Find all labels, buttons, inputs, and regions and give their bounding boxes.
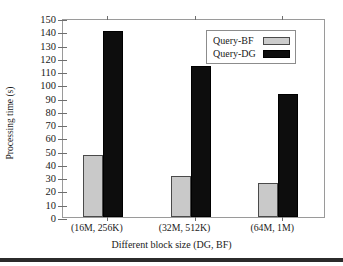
bar-query-dg-1 [191, 66, 211, 217]
y-tick-inner-70 [63, 126, 67, 127]
x-axis-title: Different block size (DG, BF) [0, 239, 343, 250]
legend-item-query-bf: Query-BF [213, 34, 290, 47]
y-tick-inner-50 [63, 153, 67, 154]
bar-query-dg-0 [103, 31, 123, 217]
x-tick-1 [195, 217, 196, 221]
y-tick-inner-20 [63, 192, 67, 193]
y-tick-label-150: 150 [40, 15, 56, 26]
y-tick-label-120: 120 [40, 55, 56, 66]
legend: Query-BF Query-DG [206, 30, 296, 64]
y-tick-inner-110 [63, 73, 67, 74]
y-tick-label-130: 130 [40, 41, 56, 52]
x-tick-top-1 [195, 16, 196, 20]
y-tick-label-30: 30 [46, 174, 57, 185]
y-tick-inner-60 [63, 139, 67, 140]
y-tick-inner-0 [63, 219, 67, 220]
y-axis-title-text: Processing time (s) [5, 48, 15, 198]
y-tick-label-110: 110 [41, 68, 56, 79]
x-category-label-0: (16M, 256K) [71, 222, 123, 233]
y-tick-inner-130 [63, 47, 67, 48]
y-tick-inner-80 [63, 113, 67, 114]
y-tick-inner-40 [63, 166, 67, 167]
bottom-rule [0, 258, 343, 262]
legend-label-query-dg: Query-DG [213, 48, 256, 59]
bar-query-bf-0 [83, 155, 103, 217]
bar-query-bf-1 [171, 176, 191, 217]
y-tick-label-60: 60 [46, 134, 57, 145]
y-tick-inner-10 [63, 206, 67, 207]
x-tick-top-2 [282, 16, 283, 20]
y-tick-inner-150 [63, 20, 67, 21]
y-axis-title: Processing time (s) [2, 30, 18, 220]
bar-query-bf-2 [258, 183, 278, 217]
y-tick-inner-90 [63, 100, 67, 101]
y-tick-inner-120 [63, 60, 67, 61]
legend-item-query-dg: Query-DG [213, 47, 290, 60]
y-tick-inner-100 [63, 86, 67, 87]
legend-label-query-bf: Query-BF [213, 35, 254, 46]
y-tick-label-20: 20 [46, 187, 57, 198]
legend-swatch-query-bf [263, 37, 290, 45]
y-tick-label-90: 90 [46, 94, 57, 105]
y-tick-label-40: 40 [46, 161, 57, 172]
x-tick-top-0 [107, 16, 108, 20]
x-tick-2 [282, 217, 283, 221]
y-tick-label-80: 80 [46, 108, 57, 119]
x-tick-0 [107, 217, 108, 221]
bar-query-dg-2 [278, 94, 298, 217]
y-tick-label-70: 70 [46, 121, 57, 132]
y-tick-label-140: 140 [40, 28, 56, 39]
y-tick-label-10: 10 [46, 200, 57, 211]
y-tick-inner-30 [63, 179, 67, 180]
y-tick-label-100: 100 [40, 81, 56, 92]
figure: Processing time (s) 01020304050607080901… [0, 0, 343, 266]
y-tick-label-50: 50 [46, 147, 57, 158]
y-tick-inner-140 [63, 33, 67, 34]
x-category-label-2: (64M, 1M) [250, 222, 294, 233]
y-tick-label-0: 0 [51, 214, 56, 225]
x-category-label-1: (32M, 512K) [159, 222, 211, 233]
legend-swatch-query-dg [263, 50, 290, 58]
